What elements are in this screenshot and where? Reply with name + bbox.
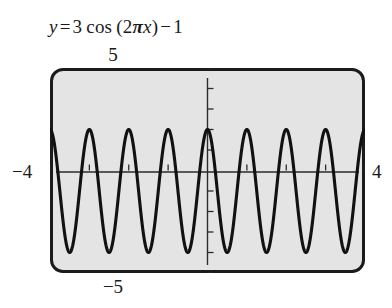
- equation-constant: 1: [173, 16, 183, 37]
- y-axis-ticks: [208, 68, 214, 273]
- figure-container: y=3 cos (2πx)−1 5 −5 −4 4: [0, 0, 392, 308]
- equation-function: cos: [86, 16, 112, 37]
- equation-pi-symbol: π: [132, 16, 143, 37]
- equation-amplitude: 3: [73, 16, 83, 37]
- equation-variable: x: [143, 16, 152, 37]
- equation-equals: =: [58, 16, 73, 37]
- y-max-label: 5: [0, 44, 392, 66]
- equation-coefficient: 2: [123, 16, 133, 37]
- calculator-screen: [50, 68, 365, 273]
- plot-area: [50, 68, 365, 273]
- equation-caption: y=3 cos (2πx)−1: [49, 16, 183, 38]
- x-max-label: 4: [372, 161, 382, 183]
- axes-group: [56, 78, 359, 265]
- x-min-label: −4: [12, 161, 32, 183]
- equation-lhs: y: [49, 16, 58, 37]
- equation-minus: −: [158, 16, 173, 37]
- y-min-label: −5: [0, 276, 392, 298]
